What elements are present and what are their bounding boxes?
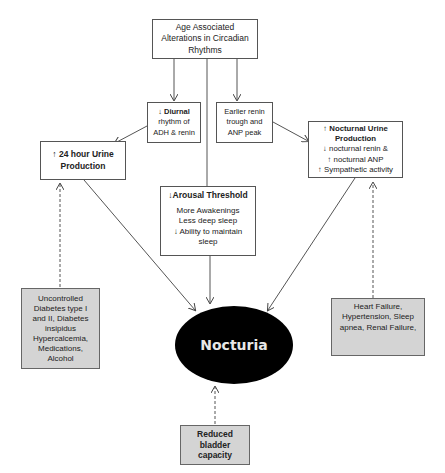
- arrow-renin-to-nocturnal: [273, 122, 308, 141]
- box-text: Diabetes type I: [34, 304, 87, 314]
- box-text: rhythm of: [158, 117, 189, 127]
- box-text: ↓ Diurnal: [158, 107, 190, 117]
- box-heading: Production: [335, 134, 376, 144]
- box-text: More Awakenings: [161, 206, 255, 216]
- box-text: Uncontrolled: [38, 294, 83, 304]
- box-text: Hypertension, Sleep: [342, 312, 414, 322]
- box-heading: Production: [61, 161, 106, 172]
- arousal-box-lower: ↓Arousal Threshold More Awakenings Less …: [160, 186, 256, 256]
- box-text: insipidus: [45, 324, 76, 334]
- box-text: Earlier renin: [224, 107, 264, 117]
- right-causes-box: Heart Failure, Hypertension, Sleep apnea…: [331, 298, 425, 356]
- box-text: ADH & renin: [153, 128, 195, 138]
- box-heading: ↓Arousal Threshold: [161, 190, 255, 201]
- urine-24h-box: ↑ 24 hour Urine Production: [40, 141, 126, 180]
- box-text: Less deep sleep: [161, 216, 255, 226]
- box-text: and II, Diabetes: [32, 314, 88, 324]
- nocturnal-urine-box: ↑ Nocturnal Urine Production ↓ nocturnal…: [308, 121, 403, 178]
- nocturia-ellipse: Nocturia: [175, 306, 293, 384]
- box-text: apnea, Renal Failure,: [340, 323, 417, 333]
- box-text: ↓ nocturnal renin &: [323, 144, 388, 154]
- box-text: Reduced: [197, 429, 233, 440]
- box-text: Alcohol: [47, 354, 73, 364]
- arrow-nocturnal-to-nocturia: [268, 178, 355, 310]
- box-text: Rhythms: [188, 45, 222, 56]
- left-causes-box: Uncontrolled Diabetes type I and II, Dia…: [21, 288, 100, 369]
- diurnal-rhythm-box: ↓ Diurnal rhythm of ADH & renin: [147, 102, 201, 143]
- box-text: Hypercalcemia,: [33, 334, 88, 344]
- nocturia-label: Nocturia: [200, 337, 267, 353]
- renin-trough-box: Earlier renin trough and ANP peak: [216, 102, 273, 143]
- bladder-capacity-box: Reduced bladder capacity: [180, 425, 250, 465]
- box-heading: ↑ 24 hour Urine: [52, 149, 113, 160]
- box-text: Age Associated: [176, 22, 235, 33]
- box-text: bladder: [200, 440, 231, 451]
- box-heading: ↑ Nocturnal Urine: [323, 124, 388, 134]
- box-text: trough and: [227, 117, 263, 127]
- box-text: ↑ Sympathetic activity: [318, 165, 393, 175]
- box-text: capacity: [198, 450, 232, 461]
- circadian-alterations-box: Age Associated Alterations in Circadian …: [152, 19, 258, 59]
- box-text: ↑ nocturnal ANP: [328, 155, 384, 165]
- box-text: Heart Failure,: [354, 302, 402, 312]
- box-text: sleep: [161, 237, 255, 247]
- box-text: ↓ Ability to maintain: [161, 227, 255, 237]
- box-text: ANP peak: [228, 128, 262, 138]
- box-text: Alterations in Circadian: [161, 33, 248, 44]
- box-text: Medications,: [38, 344, 83, 354]
